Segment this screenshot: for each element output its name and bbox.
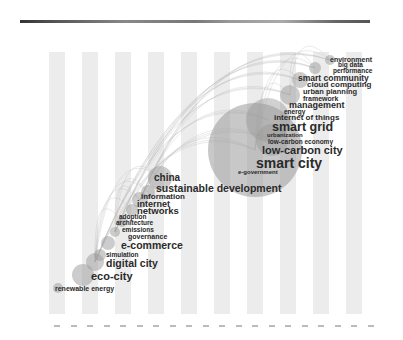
- keyword-label[interactable]: e-commerce: [121, 240, 183, 251]
- keyword-node[interactable]: [101, 236, 115, 250]
- keyword-node[interactable]: [110, 227, 120, 237]
- keyword-label[interactable]: e-government: [238, 169, 278, 175]
- keyword-label[interactable]: eco-city: [91, 271, 133, 282]
- keyword-label[interactable]: smart city: [256, 156, 322, 170]
- timezone-map-canvas[interactable]: environmentbig dataperformancesmart comm…: [0, 0, 403, 340]
- keyword-nodes: [53, 55, 335, 293]
- keyword-label[interactable]: renewable energy: [55, 285, 114, 292]
- keyword-label[interactable]: digital city: [106, 258, 158, 269]
